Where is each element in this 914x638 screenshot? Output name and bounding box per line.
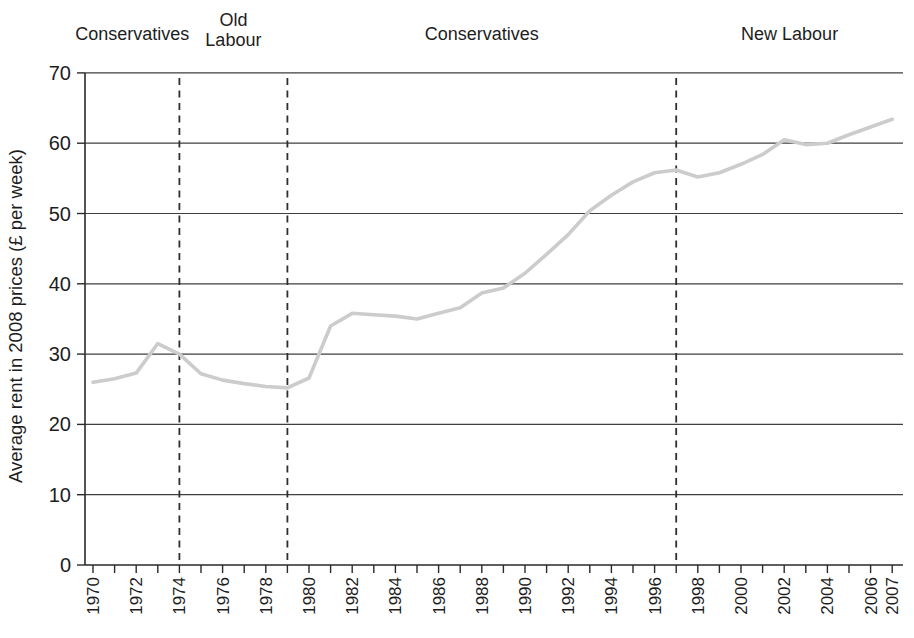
x-tick-label-2002: 2002 [775, 577, 794, 615]
x-tick-label-1978: 1978 [257, 577, 276, 615]
era-label-0: Conservatives [75, 24, 189, 44]
y-axis-title: Average rent in 2008 prices (£ per week) [5, 149, 26, 483]
x-tick-label-1974: 1974 [170, 577, 189, 615]
y-tick-label-10: 10 [49, 484, 71, 506]
x-tick-label-1998: 1998 [689, 577, 708, 615]
y-tick-label-40: 40 [49, 273, 71, 295]
gridlines [85, 73, 903, 565]
x-tick-label-2007: 2007 [883, 577, 902, 615]
x-tick-label-1996: 1996 [646, 577, 665, 615]
era-label-1-line-1: Labour [205, 30, 261, 50]
era-dividers [179, 78, 676, 565]
y-axis-ticks: 010203040506070 [49, 62, 85, 576]
x-tick-label-2000: 2000 [732, 577, 751, 615]
era-label-3: New Labour [741, 24, 838, 44]
rent-data-line [93, 119, 892, 388]
y-tick-label-0: 0 [60, 554, 71, 576]
x-tick-label-1990: 1990 [516, 577, 535, 615]
y-tick-label-50: 50 [49, 203, 71, 225]
x-tick-label-2006: 2006 [862, 577, 881, 615]
y-tick-label-20: 20 [49, 413, 71, 435]
y-tick-label-30: 30 [49, 343, 71, 365]
x-tick-label-1986: 1986 [430, 577, 449, 615]
rent-chart-figure: 0102030405060701970197219741976197819801… [0, 0, 914, 638]
era-labels: ConservativesOldLabourConservativesNew L… [75, 10, 838, 50]
x-tick-label-1982: 1982 [343, 577, 362, 615]
y-tick-label-60: 60 [49, 132, 71, 154]
era-label-2: Conservatives [425, 24, 539, 44]
x-tick-label-1976: 1976 [214, 577, 233, 615]
x-tick-label-1994: 1994 [602, 577, 621, 615]
x-tick-label-2004: 2004 [818, 577, 837, 615]
x-axis-ticks: 1970197219741976197819801982198419861988… [84, 565, 902, 615]
x-tick-label-1988: 1988 [473, 577, 492, 615]
x-tick-label-1972: 1972 [127, 577, 146, 615]
x-tick-label-1980: 1980 [300, 577, 319, 615]
y-tick-label-70: 70 [49, 62, 71, 84]
average-rent-line-chart: 0102030405060701970197219741976197819801… [0, 0, 914, 638]
x-tick-label-1970: 1970 [84, 577, 103, 615]
x-tick-label-1984: 1984 [386, 577, 405, 615]
era-label-1-line-0: Old [219, 10, 247, 30]
x-tick-label-1992: 1992 [559, 577, 578, 615]
